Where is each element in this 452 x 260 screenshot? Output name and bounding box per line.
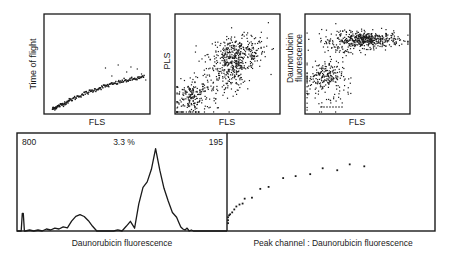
panel1-point [80, 96, 81, 97]
p3-point [319, 64, 320, 65]
p3-point [378, 40, 379, 41]
p2-point [204, 91, 205, 92]
p3-point [343, 68, 344, 69]
p3-point [384, 42, 385, 43]
p3-point [310, 78, 311, 79]
p3-point [326, 43, 327, 44]
p2-point [236, 94, 237, 95]
p3-point [360, 52, 361, 53]
p2-point [187, 103, 188, 104]
p3-point [328, 76, 329, 77]
p3-point [394, 36, 395, 37]
p2-point [204, 111, 205, 112]
p3-point [367, 37, 368, 38]
p3-point [312, 73, 313, 74]
p2-point [253, 47, 254, 48]
p2-point [207, 75, 208, 76]
p3-point [317, 83, 318, 84]
p3-point [372, 37, 373, 38]
p2-point [233, 96, 234, 97]
p2-point [218, 107, 219, 108]
p3-point [317, 79, 318, 80]
p2-point [215, 45, 216, 46]
p2-point [242, 34, 243, 35]
p2-point [242, 61, 243, 62]
p2-point [184, 87, 185, 88]
peak-channel-point [227, 219, 229, 221]
p2-point [223, 85, 224, 86]
p2-point [217, 62, 218, 63]
p3-point [332, 41, 333, 42]
p2-point [190, 77, 191, 78]
p3-point [336, 85, 337, 86]
p2-point [244, 36, 245, 37]
p2-point [185, 94, 186, 95]
p2-point [231, 47, 232, 48]
p2-point [257, 55, 258, 56]
p3-point [360, 41, 361, 42]
p3-point [359, 41, 360, 42]
panel1-point [72, 100, 73, 101]
p3-point [359, 44, 360, 45]
p2-point [231, 82, 232, 83]
p2-point [245, 47, 246, 48]
p2-point [213, 98, 214, 99]
p2-point [229, 79, 230, 80]
p2-point [258, 48, 259, 49]
panel1-point [56, 108, 57, 109]
p3-point [366, 49, 367, 50]
p3-point [382, 42, 383, 43]
p3-point [343, 38, 344, 39]
p3-point [319, 83, 320, 84]
p2-point [194, 96, 195, 97]
p2-point [218, 80, 219, 81]
p2-point [197, 102, 198, 103]
p2-point [238, 70, 239, 71]
p2-point [177, 92, 178, 93]
p2-point [227, 49, 228, 50]
p3-point [307, 32, 308, 33]
p3-point [342, 61, 343, 62]
p2-point [247, 67, 248, 68]
p3-point [338, 93, 339, 94]
p2-point [259, 41, 260, 42]
p3-point [329, 80, 330, 81]
p2-point [251, 36, 252, 37]
peak-channel-point [227, 216, 229, 218]
p2-point [220, 62, 221, 63]
hist-annotation-center: 3.3 % [113, 137, 135, 147]
p3-point [340, 78, 341, 79]
p3-baseline-point [338, 106, 339, 107]
p2-point [195, 99, 196, 100]
p2-point [217, 90, 218, 91]
p2-point [190, 95, 191, 96]
p2-point [222, 86, 223, 87]
p3-point [404, 41, 405, 42]
p2-point [224, 69, 225, 70]
p2-point [220, 71, 221, 72]
p2-point [243, 82, 244, 83]
p2-point [251, 53, 252, 54]
p2-point [204, 87, 205, 88]
p2-point [199, 101, 200, 102]
p3-point [346, 34, 347, 35]
p2-point [232, 73, 233, 74]
p2-point [235, 41, 236, 42]
p2-point [267, 37, 268, 38]
p3-point [325, 92, 326, 93]
p3-point [377, 43, 378, 44]
p3-point [365, 54, 366, 55]
p3-point [360, 36, 361, 37]
p2-point [255, 52, 256, 53]
p2-point [224, 57, 225, 58]
p2-point [251, 41, 252, 42]
p3-point [385, 45, 386, 46]
p2-point [210, 107, 211, 108]
p2-point [226, 54, 227, 55]
p2-point [181, 106, 182, 107]
p3-point [352, 31, 353, 32]
p2-point [187, 96, 188, 97]
p2-point [260, 60, 261, 61]
p3-point [372, 42, 373, 43]
p3-point [346, 51, 347, 52]
